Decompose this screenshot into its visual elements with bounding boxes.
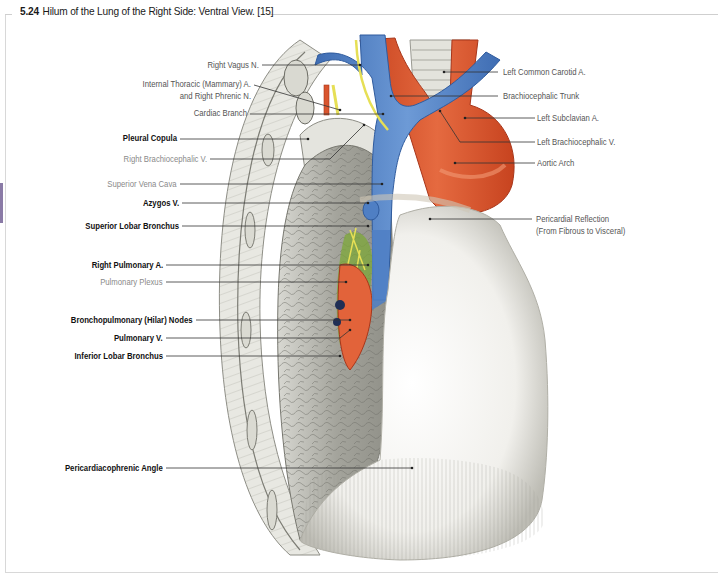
label-pulmonary-plexus: Pulmonary Plexus [101,277,163,288]
label-aortic-arch: Aortic Arch [537,158,574,169]
label-bronchopulmonary-hilar-nodes: Bronchopulmonary (Hilar) Nodes [71,315,193,326]
label-right-pulmonary-artery: Right Pulmonary A. [91,260,163,271]
anatomical-illustration [0,0,718,581]
label-cardiac-branch: Cardiac Branch [194,108,247,119]
label-superior-lobar-bronchus: Superior Lobar Bronchus [85,221,179,232]
label-superior-vena-cava: Superior Vena Cava [108,179,177,190]
label-left-common-carotid-artery: Left Common Carotid A. [503,67,586,78]
label-internal-thoracic-artery: Internal Thoracic (Mammary) A. [143,79,251,90]
label-pericardiacophrenic-angle: Pericardiacophrenic Angle [65,463,163,474]
label-brachiocephalic-trunk: Brachiocephalic Trunk [503,91,579,102]
label-right-brachiocephalic-vein: Right Brachiocephalic V. [123,154,207,165]
label-pericardial-reflection: Pericardial Reflection [536,214,609,225]
label-pleural-copula: Pleural Copula [123,133,177,144]
label-pulmonary-vein: Pulmonary V. [114,333,163,344]
label-azygos-vein: Azygos V. [143,198,179,209]
label-right-vagus-nerve: Right Vagus N. [208,60,259,71]
label-right-phrenic-nerve: and Right Phrenic N. [180,91,251,102]
label-pericardial-reflection-note: (From Fibrous to Visceral) [536,226,625,237]
label-left-brachiocephalic-vein: Left Brachiocephalic V. [537,137,615,148]
label-left-subclavian-artery: Left Subclavian A. [537,113,599,124]
label-inferior-lobar-bronchus: Inferior Lobar Bronchus [74,351,163,362]
